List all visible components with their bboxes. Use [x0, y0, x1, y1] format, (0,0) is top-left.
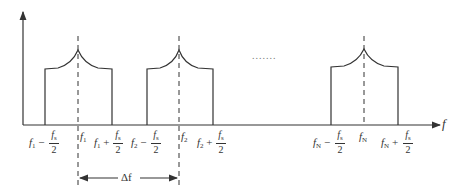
label-fn-minus: fN −	[313, 137, 330, 150]
delta-f-label: Δf	[121, 172, 132, 183]
label-f2-minus: f2 −	[131, 137, 147, 150]
label-f1: f1	[80, 131, 87, 144]
fraction-fs-2: fs2	[216, 130, 226, 155]
axis-label-f: f	[442, 117, 446, 130]
label-f1-minus: f1 −	[29, 137, 45, 150]
label-fn-plus: fN +	[381, 137, 398, 150]
fraction-fs-2: fs2	[49, 130, 59, 155]
fraction-fs-2: fs2	[113, 130, 123, 155]
band-1	[45, 50, 112, 125]
label-f2: f2	[181, 131, 188, 144]
spectrum-diagram	[0, 0, 467, 193]
fraction-fs-2: fs2	[151, 130, 161, 155]
band-n	[331, 49, 398, 125]
label-f1-plus: f1 +	[94, 137, 110, 150]
fraction-fs-2: fs2	[403, 130, 413, 155]
label-fn: fN	[359, 131, 367, 144]
fraction-fs-2: fs2	[335, 130, 345, 155]
band-2	[147, 50, 213, 125]
ellipsis: .......	[252, 50, 277, 61]
label-f2-plus: f2 +	[197, 137, 213, 150]
